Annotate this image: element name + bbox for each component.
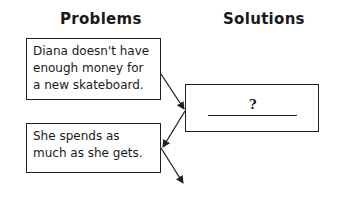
arrow-problem1-to-solution	[161, 74, 184, 109]
connector-arrows	[0, 0, 338, 197]
arrow-solution-to-problem2	[163, 111, 185, 147]
arrow-problem2-down	[161, 148, 183, 183]
